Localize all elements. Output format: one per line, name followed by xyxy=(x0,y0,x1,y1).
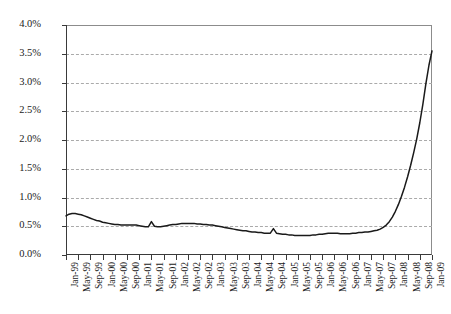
x-tick-label: Sep-04 xyxy=(277,262,287,289)
y-tick-label: 3.0% xyxy=(0,76,41,87)
x-tick-label: Jan-00 xyxy=(107,262,117,287)
x-tick-mark xyxy=(322,255,323,260)
x-tick-mark xyxy=(432,255,433,260)
y-tick-label: 0.0% xyxy=(0,248,41,259)
x-tick-mark xyxy=(408,255,409,260)
x-tick-label: May-04 xyxy=(265,262,275,292)
x-tick-label: May-08 xyxy=(412,262,422,292)
x-tick-label: Sep-05 xyxy=(314,262,324,289)
x-tick-mark xyxy=(334,255,335,260)
y-tick-label: 0.5% xyxy=(0,219,41,230)
x-tick-label: May-01 xyxy=(155,262,165,292)
noncurrent-series-path xyxy=(66,51,432,236)
x-tick-mark xyxy=(286,255,287,260)
x-tick-mark xyxy=(225,255,226,260)
y-tick-label: 3.5% xyxy=(0,47,41,58)
x-tick-mark xyxy=(347,255,348,260)
x-tick-mark xyxy=(90,255,91,260)
x-tick-mark xyxy=(139,255,140,260)
x-tick-mark xyxy=(383,255,384,260)
x-tick-mark xyxy=(395,255,396,260)
x-tick-label: May-05 xyxy=(302,262,312,292)
x-tick-label: May-00 xyxy=(119,262,129,292)
x-tick-label: Jan-06 xyxy=(326,262,336,287)
x-tick-label: Jan-01 xyxy=(143,262,153,287)
x-tick-mark xyxy=(371,255,372,260)
x-tick-label: Sep-99 xyxy=(94,262,104,289)
x-tick-label: May-02 xyxy=(192,262,202,292)
x-tick-mark xyxy=(420,255,421,260)
x-tick-label: Jan-03 xyxy=(216,262,226,287)
x-tick-mark xyxy=(151,255,152,260)
x-tick-label: Jan-02 xyxy=(180,262,190,287)
x-tick-mark xyxy=(115,255,116,260)
x-tick-label: Jan-04 xyxy=(253,262,263,287)
x-tick-label: May-07 xyxy=(375,262,385,292)
x-tick-mark xyxy=(200,255,201,260)
x-tick-mark xyxy=(127,255,128,260)
x-tick-mark xyxy=(176,255,177,260)
series-line xyxy=(66,25,432,255)
x-tick-label: Jan-05 xyxy=(290,262,300,287)
x-tick-label: May-06 xyxy=(338,262,348,292)
y-tick-label: 1.0% xyxy=(0,191,41,202)
y-tick-label: 1.5% xyxy=(0,162,41,173)
x-tick-mark xyxy=(359,255,360,260)
x-tick-label: Sep-06 xyxy=(351,262,361,289)
x-tick-mark xyxy=(273,255,274,260)
x-tick-label: Jan-08 xyxy=(399,262,409,287)
chart-page: Percent Noncurrent (60+ days) 0.0%0.5%1.… xyxy=(0,0,451,314)
x-tick-label: Sep-03 xyxy=(241,262,251,289)
x-tick-mark xyxy=(78,255,79,260)
x-tick-label: May-99 xyxy=(82,262,92,292)
x-tick-label: Sep-07 xyxy=(387,262,397,289)
y-tick-label: 2.0% xyxy=(0,133,41,144)
x-tick-mark xyxy=(188,255,189,260)
x-tick-mark xyxy=(249,255,250,260)
x-tick-label: Sep-00 xyxy=(131,262,141,289)
plot-area: 0.0%0.5%1.0%1.5%2.0%2.5%3.0%3.5%4.0% Jan… xyxy=(66,25,432,255)
x-tick-label: Jan-99 xyxy=(70,262,80,287)
x-tick-mark xyxy=(261,255,262,260)
x-tick-label: Jan-07 xyxy=(363,262,373,287)
x-tick-mark xyxy=(298,255,299,260)
x-tick-mark xyxy=(237,255,238,260)
x-tick-label: Sep-08 xyxy=(424,262,434,289)
x-tick-mark xyxy=(164,255,165,260)
x-tick-label: May-03 xyxy=(229,262,239,292)
x-tick-label: Sep-01 xyxy=(168,262,178,289)
y-tick-label: 2.5% xyxy=(0,104,41,115)
x-tick-mark xyxy=(212,255,213,260)
x-tick-mark xyxy=(103,255,104,260)
x-tick-label: Jan-09 xyxy=(436,262,446,287)
x-tick-mark xyxy=(66,255,67,260)
x-tick-mark xyxy=(310,255,311,260)
y-tick-label: 4.0% xyxy=(0,18,41,29)
x-tick-label: Sep-02 xyxy=(204,262,214,289)
